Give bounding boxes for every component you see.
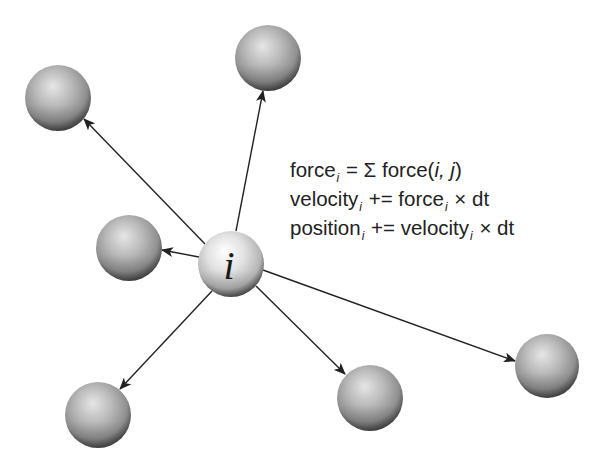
eq2-lhs: velocity <box>290 187 358 210</box>
arrow-to-bottom-left <box>120 291 212 389</box>
particle-right <box>515 334 579 398</box>
eq2-rhs-subscript: i <box>445 200 448 214</box>
equation-force: forcei = Σ force(i, j) <box>290 157 514 186</box>
eq1-lhs-subscript: i <box>337 171 340 185</box>
eq3-operator: += velocity <box>365 216 469 239</box>
eq3-tail: × dt <box>474 216 514 239</box>
eq3-lhs-subscript: i <box>362 229 365 243</box>
update-equations: forcei = Σ force(i, j) velocityi += forc… <box>290 157 514 244</box>
arrow-to-left <box>162 250 199 257</box>
eq3-rhs-subscript: i <box>470 229 473 243</box>
arrow-to-bottom-middle <box>256 286 345 374</box>
arrow-to-right <box>263 270 515 361</box>
eq3-lhs: position <box>290 216 361 239</box>
eq2-tail: × dt <box>449 187 489 210</box>
particle-center-i: i <box>198 231 264 297</box>
particle-bottom-middle <box>337 365 403 431</box>
particle-top <box>235 25 301 91</box>
eq1-operator: = Σ force( <box>340 158 434 181</box>
eq2-lhs-subscript: i <box>359 200 362 214</box>
eq2-operator: += force <box>363 187 444 210</box>
eq1-args: i, j <box>434 158 455 181</box>
equation-velocity: velocityi += forcei × dt <box>290 186 514 215</box>
particle-top-left <box>25 65 91 131</box>
particle-bottom-left <box>65 382 131 448</box>
arrow-to-top <box>236 91 263 231</box>
particle-left <box>96 215 162 281</box>
eq1-close: ) <box>455 158 462 181</box>
eq1-lhs: force <box>290 158 336 181</box>
center-particle-label: i <box>223 243 234 288</box>
equation-position: positioni += velocityi × dt <box>290 215 514 244</box>
